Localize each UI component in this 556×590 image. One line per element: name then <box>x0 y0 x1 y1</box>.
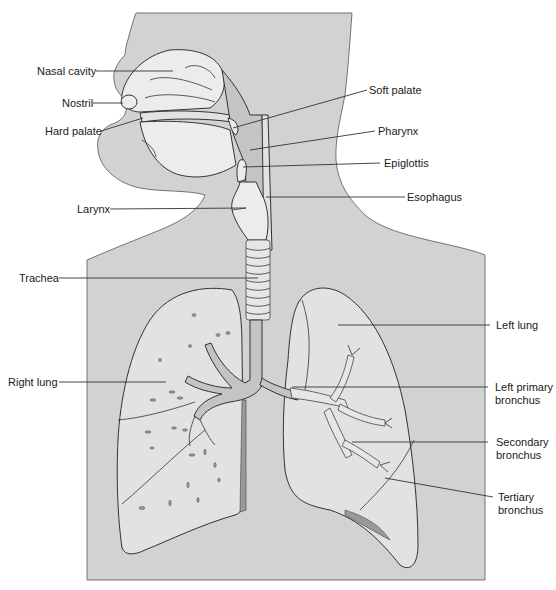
label-secondary-bronchus-line2: bronchus <box>496 449 542 461</box>
trachea <box>246 240 270 320</box>
label-right-lung: Right lung <box>8 376 58 388</box>
label-left-lung: Left lung <box>496 319 538 331</box>
label-tertiary-bronchus-line1: Tertiary <box>498 491 535 503</box>
label-nasal-cavity: Nasal cavity <box>37 65 97 77</box>
label-soft-palate: Soft palate <box>369 84 422 96</box>
label-tertiary-bronchus: Tertiary bronchus <box>498 491 544 516</box>
label-larynx: Larynx <box>77 203 111 215</box>
label-trachea: Trachea <box>19 272 60 284</box>
label-epiglottis: Epiglottis <box>384 157 429 169</box>
epiglottis <box>237 160 246 182</box>
label-nostril: Nostril <box>62 97 93 109</box>
respiratory-diagram: Nasal cavity Nostril Hard palate Soft pa… <box>0 0 556 590</box>
label-secondary-bronchus: Secondary bronchus <box>496 436 552 461</box>
label-esophagus: Esophagus <box>407 191 463 203</box>
nostril <box>121 95 137 109</box>
label-tertiary-bronchus-line2: bronchus <box>498 504 544 516</box>
label-left-primary-bronchus: Left primary bronchus <box>495 381 556 406</box>
label-secondary-bronchus-line1: Secondary <box>496 436 549 448</box>
label-pharynx: Pharynx <box>378 125 419 137</box>
label-hard-palate: Hard palate <box>45 125 102 137</box>
label-left-primary-bronchus-line2: bronchus <box>495 394 541 406</box>
label-left-primary-bronchus-line1: Left primary <box>495 381 554 393</box>
